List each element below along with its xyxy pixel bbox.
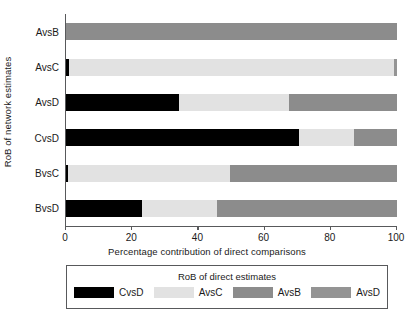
bar-segment [66, 94, 179, 111]
legend-item: AvsC [154, 287, 223, 298]
legend-item: CvsD [74, 287, 143, 298]
legend-item: AvsB [233, 287, 301, 298]
bar-segment [289, 94, 397, 111]
bar-segment [299, 129, 354, 146]
bar-segment [179, 94, 290, 111]
legend-label: AvsD [356, 287, 380, 298]
bar-segment [217, 200, 397, 217]
bar-segment [68, 165, 230, 182]
stacked-bar [66, 94, 397, 111]
legend-item: AvsD [311, 287, 380, 298]
chart-figure: RoB of network estimates AvsBAvsCAvsDCvs… [0, 0, 414, 317]
y-axis-title: RoB of network estimates [2, 2, 16, 222]
bar-row: CvsD [66, 129, 397, 146]
legend-swatch [154, 287, 194, 298]
y-tick-label: BvsC [35, 168, 59, 179]
bar-row: AvsC [66, 59, 397, 76]
legend: RoB of direct estimates CvsDAvsCAvsBAvsD [66, 265, 388, 309]
x-tick [197, 226, 198, 230]
y-tick-label: AvsB [36, 26, 59, 37]
legend-swatch [311, 287, 351, 298]
legend-label: AvsC [199, 287, 223, 298]
x-tick-label: 60 [258, 232, 269, 243]
legend-label: AvsB [278, 287, 301, 298]
bar-segment [394, 59, 397, 76]
x-tick [330, 226, 331, 230]
legend-swatch [74, 287, 114, 298]
x-tick-label: 20 [126, 232, 137, 243]
stacked-bar [66, 23, 397, 40]
stacked-bar [66, 200, 397, 217]
y-tick-label: AvsD [35, 97, 59, 108]
x-tick [396, 226, 397, 230]
x-axis-title: Percentage contribution of direct compar… [0, 246, 414, 257]
bar-row: AvsD [66, 94, 397, 111]
x-tick-label: 100 [388, 232, 405, 243]
plot-area: AvsBAvsCAvsDCvsDBvsCBvsD [65, 14, 397, 226]
y-tick-label: BvsD [35, 203, 59, 214]
x-tick-label: 80 [324, 232, 335, 243]
x-tick-label: 0 [62, 232, 68, 243]
bar-segment [66, 129, 299, 146]
legend-label: CvsD [119, 287, 143, 298]
x-tick-label: 40 [192, 232, 203, 243]
bar-segment [230, 165, 397, 182]
y-tick-label: CvsD [35, 132, 59, 143]
bar-row: BvsD [66, 200, 397, 217]
stacked-bar [66, 129, 397, 146]
legend-swatch [233, 287, 273, 298]
bar-row: AvsB [66, 23, 397, 40]
x-tick [264, 226, 265, 230]
bar-segment [69, 59, 393, 76]
bar-segment [66, 23, 397, 40]
legend-title: RoB of direct estimates [67, 271, 387, 282]
stacked-bar [66, 165, 397, 182]
bar-segment [66, 200, 142, 217]
bar-segment [142, 200, 217, 217]
y-tick-label: AvsC [35, 62, 59, 73]
x-tick [65, 226, 66, 230]
legend-items: CvsDAvsCAvsBAvsD [67, 282, 387, 298]
bar-row: BvsC [66, 165, 397, 182]
x-axis-line: 020406080100 [65, 226, 396, 227]
bar-segment [354, 129, 397, 146]
x-tick [131, 226, 132, 230]
stacked-bar [66, 59, 397, 76]
